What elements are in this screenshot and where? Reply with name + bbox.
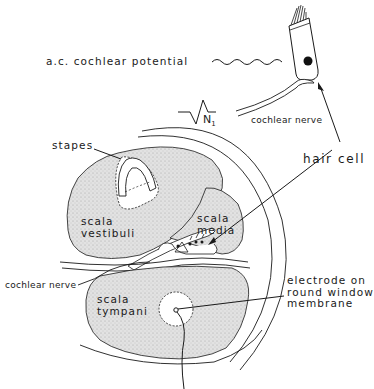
nucleus-icon xyxy=(304,57,313,66)
electrode-label: electrode on round window membrane xyxy=(287,275,374,310)
ac-potential-waveform xyxy=(212,60,282,65)
n1-subscript: 1 xyxy=(211,120,215,128)
scala-media-label: scala media xyxy=(197,213,235,236)
n1-letter: N xyxy=(203,113,211,126)
electrode-tip-icon xyxy=(174,308,178,312)
stapes-label: stapes xyxy=(52,140,93,151)
ac-cochlear-potential-label: a.c. cochlear potential xyxy=(46,56,188,67)
cochlear-nerve-left-label: cochlear nerve xyxy=(5,281,76,290)
cochlear-nerve-top-label: cochlear nerve xyxy=(251,116,322,125)
n1-label: N1 xyxy=(203,114,216,128)
scala-vestibuli-label: scala vestibuli xyxy=(81,216,135,239)
hair-cell-label: hair cell xyxy=(303,153,365,165)
scala-tympani-label: scala tympani xyxy=(97,294,148,317)
